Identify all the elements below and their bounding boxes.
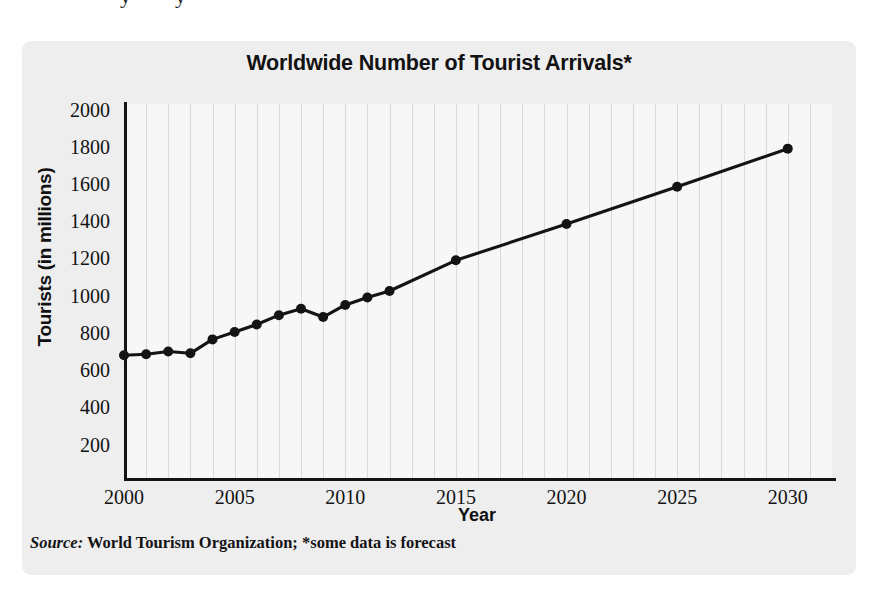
series-markers xyxy=(119,144,793,361)
chart-title: Worldwide Number of Tourist Arrivals* xyxy=(22,51,856,76)
source-note: Source: World Tourism Organization; *som… xyxy=(30,533,456,553)
data-point-2001 xyxy=(141,349,151,359)
y-tick-200: 200 xyxy=(44,433,120,456)
y-tick-2000: 2000 xyxy=(44,98,120,121)
data-point-2004 xyxy=(208,334,218,344)
data-point-2005 xyxy=(230,327,240,337)
data-point-2006 xyxy=(252,319,262,329)
data-point-2030 xyxy=(783,144,793,154)
plot-area: 200400600800100012001400160018002000 200… xyxy=(124,104,832,478)
y-tick-1400: 1400 xyxy=(44,210,120,233)
y-tick-800: 800 xyxy=(44,321,120,344)
y-tick-1200: 1200 xyxy=(44,247,120,270)
data-point-2003 xyxy=(185,348,195,358)
data-point-2012 xyxy=(385,286,395,296)
data-point-2002 xyxy=(163,346,173,356)
y-tick-1600: 1600 xyxy=(44,173,120,196)
remnant-glyph: y xyxy=(175,0,186,9)
tourist-arrivals-series xyxy=(124,104,832,478)
y-tick-1000: 1000 xyxy=(44,284,120,307)
x-axis-label: Year xyxy=(122,505,832,526)
data-point-2007 xyxy=(274,310,284,320)
y-tick-600: 600 xyxy=(44,359,120,382)
data-point-2009 xyxy=(318,312,328,322)
data-point-2011 xyxy=(362,293,372,303)
source-label: Source: xyxy=(30,533,83,552)
data-point-2020 xyxy=(562,219,572,229)
data-point-2025 xyxy=(672,182,682,192)
series-line xyxy=(124,149,788,356)
data-point-2010 xyxy=(340,300,350,310)
data-point-2008 xyxy=(296,304,306,314)
source-value: World Tourism Organization; *some data i… xyxy=(83,533,456,552)
y-axis-spine xyxy=(124,102,127,480)
x-axis-spine xyxy=(124,478,836,481)
data-point-2015 xyxy=(451,255,461,265)
y-tick-1800: 1800 xyxy=(44,135,120,158)
y-tick-400: 400 xyxy=(44,396,120,419)
chart-figure-panel: Worldwide Number of Tourist Arrivals* To… xyxy=(22,41,856,575)
remnant-glyph: y xyxy=(120,0,131,9)
cropped-text-remnant: y y xyxy=(0,0,889,34)
